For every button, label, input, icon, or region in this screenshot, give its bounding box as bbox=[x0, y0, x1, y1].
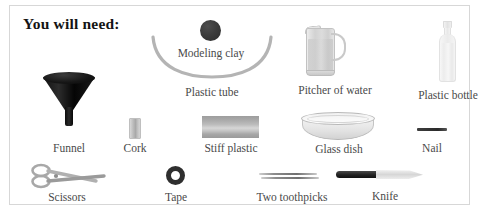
glass-dish-icon bbox=[301, 112, 375, 142]
label-glass-dish: Glass dish bbox=[304, 143, 374, 156]
label-plastic-tube: Plastic tube bbox=[170, 86, 254, 99]
page-title: You will need: bbox=[23, 15, 120, 33]
toothpick-2 bbox=[261, 177, 319, 179]
materials-panel: You will need: Modeling clay Plastic tub… bbox=[9, 5, 470, 205]
label-plastic-bottle: Plastic bottle bbox=[406, 89, 490, 102]
label-nail: Nail bbox=[409, 142, 455, 155]
bottle-body bbox=[439, 43, 456, 82]
label-toothpicks: Two toothpicks bbox=[244, 191, 340, 204]
label-scissors: Scissors bbox=[30, 191, 104, 204]
label-stiff-plastic: Stiff plastic bbox=[195, 142, 267, 155]
plastic-sheet-icon bbox=[202, 116, 259, 138]
funnel-icon bbox=[43, 72, 95, 128]
funnel-stem bbox=[65, 107, 73, 126]
pitcher-water bbox=[308, 39, 333, 73]
tape-roll-icon bbox=[166, 166, 185, 185]
label-tape: Tape bbox=[150, 191, 202, 204]
cork-icon bbox=[129, 118, 141, 139]
pitcher-base bbox=[306, 70, 335, 76]
knife-blade bbox=[376, 170, 423, 179]
u-shaped-tube-icon bbox=[150, 34, 274, 80]
label-cork: Cork bbox=[107, 142, 163, 155]
bottle-cap bbox=[443, 21, 452, 28]
knife-handle bbox=[336, 171, 378, 178]
toothpick-1 bbox=[259, 173, 317, 175]
nail-icon bbox=[417, 128, 447, 131]
label-pitcher: Pitcher of water bbox=[289, 84, 381, 97]
funnel-rim bbox=[43, 72, 95, 84]
bottle-icon bbox=[434, 21, 462, 83]
label-knife: Knife bbox=[359, 190, 411, 203]
pitcher-handle bbox=[331, 33, 346, 61]
label-funnel: Funnel bbox=[36, 142, 102, 155]
pitcher-icon bbox=[303, 22, 349, 78]
dish-inner-rim bbox=[307, 115, 369, 123]
knife-icon bbox=[336, 169, 426, 181]
toothpicks-icon bbox=[259, 172, 321, 182]
scissors-icon bbox=[30, 163, 110, 189]
